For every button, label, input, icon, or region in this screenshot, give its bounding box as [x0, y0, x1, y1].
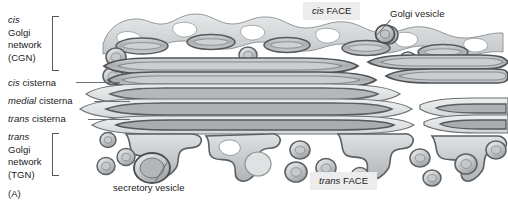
trans-cisterna-label: trans cisterna	[8, 113, 66, 126]
medial-cisterna-leader-line	[94, 101, 130, 102]
trans-face-italic: trans	[319, 175, 340, 186]
golgi-vesicle-label: Golgi vesicle	[390, 8, 445, 21]
tgn-label-line4: (TGN)	[8, 169, 35, 180]
medial-cisterna-label: medial cisterna	[8, 95, 73, 108]
cgn-bracket	[52, 16, 59, 71]
trans-cisterna-rest: cisterna	[29, 113, 65, 124]
tgn-label-line2: Golgi	[8, 144, 30, 155]
medial-cisternae-stack	[104, 55, 508, 88]
tgn-bracket	[52, 133, 59, 176]
cgn-label: cisGolginetwork(CGN)	[8, 14, 42, 64]
medial-cisterna-italic: medial	[8, 95, 36, 106]
cis-face-italic: cis	[312, 5, 324, 16]
golgi-apparatus-illustration	[0, 0, 508, 211]
tgn-label-italic: trans	[8, 131, 29, 142]
cis-cisterna-italic: cis	[8, 77, 20, 88]
golgi-apparatus-figure: cisGolginetwork(CGN) cis cisterna medial…	[0, 0, 508, 211]
cgn-label-line3: network	[8, 39, 42, 50]
trans-cisterna-plate	[92, 115, 508, 134]
panel-label: (A)	[8, 188, 21, 199]
cis-face-label: cis FACE	[303, 2, 360, 20]
tgn-label: transGolginetwork(TGN)	[8, 131, 42, 181]
cis-cisterna-leader-line	[76, 82, 120, 83]
medial-cisterna-rest: cisterna	[36, 95, 72, 106]
trans-face-rest: FACE	[340, 175, 368, 186]
cgn-label-line4: (CGN)	[8, 52, 36, 63]
cis-face-rest: FACE	[324, 5, 352, 16]
cis-cisterna-rest: cisterna	[20, 77, 56, 88]
trans-cisterna-italic: trans	[8, 113, 29, 124]
trans-face-label: trans FACE	[310, 172, 377, 190]
tgn-label-line3: network	[8, 156, 42, 167]
cgn-label-italic: cis	[8, 14, 20, 25]
cis-cisterna-label: cis cisterna	[8, 77, 56, 90]
trans-cisterna-leader-line	[88, 119, 130, 120]
trans-golgi-network	[97, 133, 506, 187]
secretory-vesicle-label: secretory vesicle	[113, 182, 185, 195]
cgn-label-line2: Golgi	[8, 27, 30, 38]
